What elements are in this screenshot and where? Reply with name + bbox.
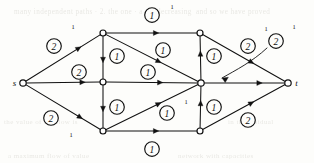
edge-arrowhead xyxy=(157,80,162,85)
capacity-value: 2 xyxy=(49,113,54,124)
capacity-value: 1 xyxy=(115,102,120,113)
capacity-badge: 1 xyxy=(207,100,222,115)
figure-root: many independent paths · 2. the one · a … xyxy=(0,0,314,163)
capacity-badge: 1 xyxy=(110,49,125,64)
edge-arrowhead xyxy=(257,81,262,86)
capacity-badge: 1 xyxy=(110,100,125,115)
capacity-badge: 2 xyxy=(44,111,59,126)
flow-network-diagram: 222111111111222 111111 st xyxy=(0,0,314,163)
node-label-s: s xyxy=(13,78,17,88)
edge-f-e xyxy=(198,86,203,128)
edge-arrowhead xyxy=(153,31,158,36)
graph-node-s[interactable] xyxy=(20,80,26,86)
graph-node-t[interactable] xyxy=(285,80,291,86)
capacity-value: 2 xyxy=(77,67,82,78)
edge-arrowhead xyxy=(198,100,203,105)
graph-node[interactable] xyxy=(198,80,204,86)
node-label-t: t xyxy=(295,78,298,88)
leader-arrowhead xyxy=(222,77,228,82)
capacity-badge: 1 xyxy=(156,43,171,58)
capacity-badge: 2 xyxy=(269,34,284,49)
capacity-value: 2 xyxy=(246,115,251,126)
capacity-badge: 1 xyxy=(141,65,156,80)
capacity-value: 1 xyxy=(146,67,151,78)
capacity-badge: 2 xyxy=(241,39,256,54)
capacity-value: 2 xyxy=(246,41,251,52)
capacity-value: 1 xyxy=(212,51,217,62)
capacity-badge: 2 xyxy=(72,65,87,80)
capacity-value: 1 xyxy=(115,51,120,62)
graph-node[interactable] xyxy=(197,30,203,36)
edge-arrowhead xyxy=(101,106,106,111)
capacity-badge: 1 xyxy=(160,106,175,121)
edge-s-c xyxy=(26,85,101,130)
edge-e-t xyxy=(204,81,285,86)
capacity-badge: 1 xyxy=(145,8,160,23)
capacity-value: 1 xyxy=(165,108,170,119)
graph-node[interactable] xyxy=(100,79,106,85)
edge-e-d xyxy=(198,36,203,80)
edge-a-d xyxy=(106,31,197,36)
edge-arrowhead xyxy=(80,80,85,85)
flow-tick: 1 xyxy=(184,98,187,105)
capacity-value: 1 xyxy=(150,10,155,21)
capacity-badge: 1 xyxy=(207,49,222,64)
capacity-value: 2 xyxy=(52,41,57,52)
edge-arrowhead xyxy=(153,129,158,134)
capacity-badge: 2 xyxy=(47,39,62,54)
capacity-badge: 1 xyxy=(145,142,160,157)
edge-b-e xyxy=(106,80,198,85)
capacity-value: 2 xyxy=(274,36,279,47)
flow-tick: 1 xyxy=(264,25,267,32)
edge-b-c xyxy=(101,85,106,128)
edge-s-b xyxy=(26,80,100,85)
edge-s-a xyxy=(26,35,101,82)
edge-arrowhead xyxy=(101,57,106,62)
flow-tick: 1 xyxy=(292,23,295,30)
flow-tick: 1 xyxy=(71,23,74,30)
flow-tick: 1 xyxy=(69,131,72,138)
edge-arrowhead xyxy=(155,58,161,63)
graph-node[interactable] xyxy=(100,128,106,134)
graph-node[interactable] xyxy=(197,128,203,134)
edge-arrowhead xyxy=(155,103,161,108)
capacity-value: 1 xyxy=(161,45,166,56)
capacity-badge: 2 xyxy=(241,113,256,128)
flow-tick: 1 xyxy=(170,3,173,10)
edge-arrowhead xyxy=(198,51,203,56)
leader-line-layer xyxy=(222,48,267,83)
edge-c-f xyxy=(106,129,197,134)
edge-arrowhead xyxy=(75,47,81,52)
graph-node[interactable] xyxy=(100,30,106,36)
capacity-value: 1 xyxy=(212,102,217,113)
capacity-value: 1 xyxy=(150,144,155,155)
edge-a-b xyxy=(101,36,106,79)
